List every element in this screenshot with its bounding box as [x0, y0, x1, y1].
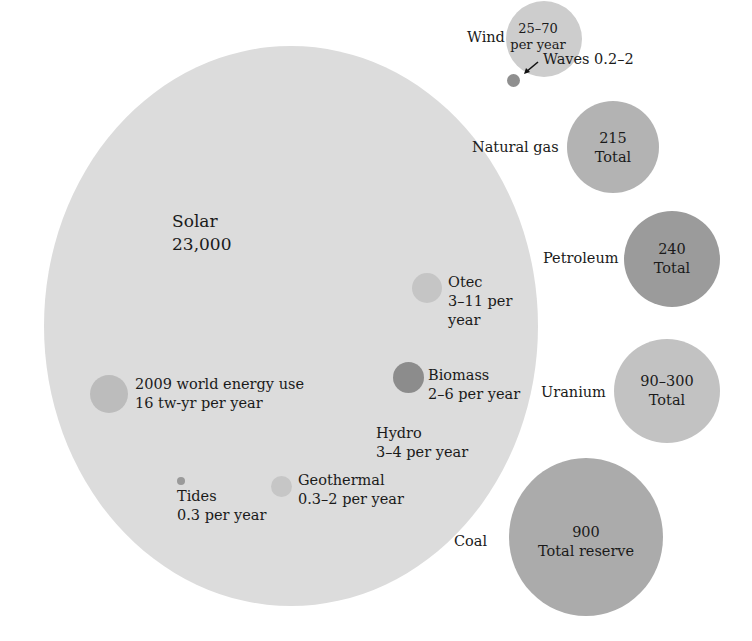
- wind-value: 25–70 per year: [510, 21, 565, 53]
- geothermal-circle: [271, 476, 292, 497]
- biomass-label: Biomass 2–6 per year: [428, 366, 520, 404]
- biomass-circle: [393, 362, 424, 393]
- waves-circle: [507, 74, 520, 87]
- arrow-down-left-icon: [522, 60, 540, 81]
- hydro-label: Hydro 3–4 per year: [376, 424, 468, 462]
- waves-label: Waves 0.2–2: [543, 50, 634, 69]
- world-use-circle: [90, 375, 128, 413]
- natural-gas-value: 215 Total: [595, 129, 631, 167]
- otec-circle: [412, 273, 442, 303]
- petroleum-value: 240 Total: [654, 240, 690, 278]
- tides-label: Tides 0.3 per year: [177, 487, 266, 525]
- world-use-label: 2009 world energy use 16 tw-yr per year: [135, 375, 304, 413]
- solar-label: Solar 23,000: [172, 210, 231, 256]
- uranium-value: 90–300 Total: [640, 372, 693, 410]
- wind-name: Wind: [467, 28, 505, 47]
- petroleum-name: Petroleum: [543, 249, 618, 268]
- otec-label: Otec 3–11 per year: [448, 273, 512, 330]
- coal-value: 900 Total reserve: [538, 523, 634, 561]
- uranium-name: Uranium: [541, 383, 606, 402]
- coal-name: Coal: [454, 532, 487, 551]
- natural-gas-name: Natural gas: [472, 138, 559, 157]
- geothermal-label: Geothermal 0.3–2 per year: [298, 471, 404, 509]
- tides-circle: [177, 477, 185, 485]
